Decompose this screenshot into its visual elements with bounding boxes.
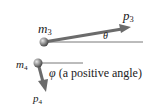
label-p3: p3 — [123, 9, 134, 24]
label-p4: p4 — [33, 93, 42, 106]
ball-m3 — [40, 38, 49, 47]
label-theta: θ — [103, 31, 108, 41]
label-m4: m4 — [16, 59, 28, 72]
arrowhead-p4 — [38, 79, 48, 92]
ball-m4 — [34, 59, 43, 68]
angle-note: (a positive angle) — [59, 66, 142, 80]
momentum-arrow-p3 — [44, 29, 122, 42]
label-m3: m3 — [38, 22, 52, 37]
label-phi-note: φ (a positive angle) — [49, 67, 142, 79]
label-phi: φ — [49, 66, 56, 80]
arrowhead-p3 — [119, 24, 131, 33]
